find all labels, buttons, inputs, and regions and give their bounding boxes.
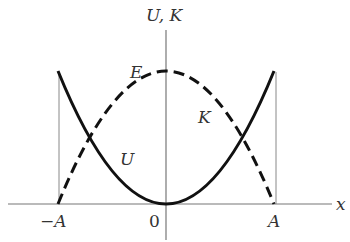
- y-axis-label: U, K: [146, 5, 184, 25]
- tick-neg-A: −A: [40, 211, 67, 231]
- diagram-svg: U, K x E K U −A 0 A: [0, 0, 350, 242]
- energy-diagram: U, K x E K U −A 0 A: [0, 0, 350, 242]
- tick-pos-A: A: [266, 211, 280, 231]
- potential-label: U: [120, 149, 135, 169]
- x-axis-label: x: [336, 194, 346, 214]
- kinetic-label: K: [197, 107, 212, 127]
- total-energy-label: E: [129, 62, 143, 82]
- tick-zero: 0: [149, 211, 160, 231]
